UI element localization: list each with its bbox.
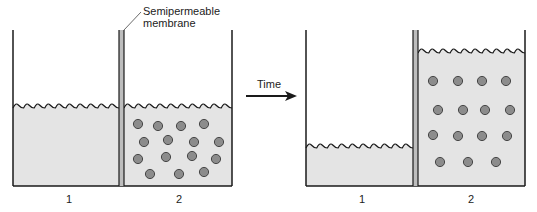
solute-particle [501, 76, 510, 85]
diagram-canvas [0, 0, 537, 212]
solute-particle [433, 105, 442, 114]
solute-particle [211, 154, 220, 163]
solute-particle [161, 152, 170, 161]
water-after-left [306, 144, 413, 186]
osmosis-diagram: Semipermeable membrane Time 1 2 1 2 [0, 0, 537, 212]
solute-particle [505, 105, 514, 114]
solute-particle [214, 137, 223, 146]
membrane-label-line1: Semipermeable [143, 5, 220, 17]
solute-particle [428, 76, 437, 85]
solute-particle [174, 169, 183, 178]
solute-particle [133, 154, 142, 163]
solute-particle [477, 76, 486, 85]
solute-particle [480, 105, 489, 114]
solute-particle [199, 167, 208, 176]
compartment-2-after-label: 2 [461, 193, 481, 205]
solute-particle [477, 131, 486, 140]
solute-particle [163, 135, 172, 144]
compartment-1-before-label: 1 [59, 193, 79, 205]
solute-particle [153, 121, 162, 130]
membrane-after [413, 30, 418, 186]
solute-particle [435, 157, 444, 166]
time-arrow-label: Time [257, 78, 281, 90]
solute-particle [189, 137, 198, 146]
water-before-left [13, 104, 119, 186]
solute-particle [133, 119, 142, 128]
compartment-2-before-label: 2 [169, 193, 189, 205]
solute-particle [463, 157, 472, 166]
solute-particle [453, 131, 462, 140]
solute-particle [458, 105, 467, 114]
solute-particle [139, 137, 148, 146]
membrane-before [119, 30, 124, 186]
membrane-leader-line [124, 12, 141, 30]
solute-particle [187, 151, 196, 160]
solute-particle [491, 157, 500, 166]
membrane-label-line2: membrane [143, 17, 196, 29]
solute-particle [145, 169, 154, 178]
solute-particle [502, 131, 511, 140]
solute-particle [176, 121, 185, 130]
solute-particle [428, 130, 437, 139]
compartment-1-after-label: 1 [352, 193, 372, 205]
solute-particle [453, 76, 462, 85]
solute-particle [199, 119, 208, 128]
